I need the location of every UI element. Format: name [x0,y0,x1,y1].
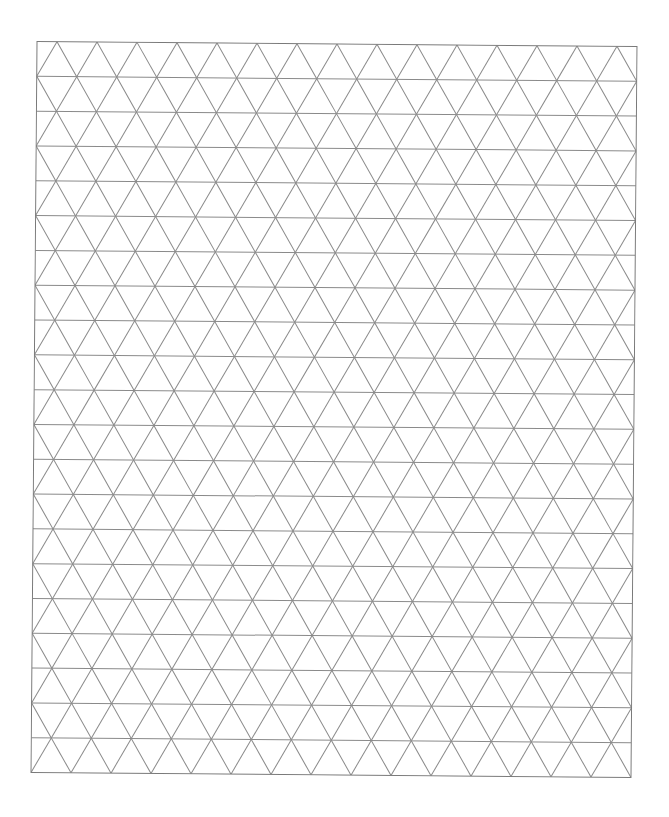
grid-line [236,78,256,113]
grid-line [494,324,514,359]
grid-line [155,251,175,286]
grid-line [154,356,174,391]
grid-line [296,148,316,183]
grid-line [452,602,472,637]
grid-line [434,428,454,463]
grid-line [272,635,292,670]
grid-line [474,428,494,463]
grid-line [32,598,52,633]
grid-line [216,182,236,217]
grid-line [255,287,275,322]
grid-line [254,322,274,357]
grid-line [194,426,214,461]
grid-line [153,460,173,495]
grid-line [313,531,333,566]
grid-line [477,45,497,80]
grid-line [332,636,352,671]
grid-line [375,288,395,323]
grid-line [376,149,396,184]
grid-line [174,426,194,461]
grid-line [613,534,633,569]
grid-line [435,254,455,289]
grid-line [572,568,592,603]
grid-line [552,603,572,638]
grid-line [54,355,74,390]
grid-line [354,392,374,427]
grid-line [154,391,174,426]
grid-line [572,638,592,673]
grid-line [617,46,637,81]
grid-line [254,426,274,461]
grid-line [172,669,192,704]
grid-line [396,114,416,149]
grid-line [34,424,634,429]
grid-line [294,322,314,357]
grid-line [193,495,213,530]
grid-line [257,43,277,78]
grid-line [415,219,435,254]
grid-line [537,46,557,81]
grid-line [352,601,372,636]
grid-line [197,43,217,78]
grid-line [516,115,536,150]
grid-line [213,530,233,565]
grid-line [92,564,112,599]
grid-line [134,390,154,425]
grid-line [196,78,216,113]
grid-line [52,633,72,668]
grid-line [75,286,95,321]
grid-line [351,740,371,775]
grid-line [196,182,216,217]
grid-line [114,390,134,425]
grid-line [113,530,133,565]
grid-line [493,498,513,533]
grid-line [534,394,554,429]
grid-line [196,112,216,147]
grid-line [432,671,452,706]
grid-line [76,146,96,181]
grid-line [552,568,572,603]
grid-line [392,671,412,706]
grid-line [254,391,274,426]
grid-line [272,566,292,601]
grid-line [574,359,594,394]
grid-line [117,42,137,77]
grid-line [452,637,472,672]
grid-line [153,530,173,565]
grid-line [32,703,632,708]
grid-line [114,425,134,460]
grid-line [30,181,36,216]
grid-line [52,668,72,703]
grid-line [511,707,531,742]
grid-line [533,463,553,498]
grid-line [297,44,317,79]
grid-line [36,111,56,146]
grid-line [632,673,638,708]
grid-line [273,461,293,496]
grid-line [454,323,474,358]
grid-line [315,288,335,323]
grid-line [132,634,152,669]
grid-line [375,253,395,288]
grid-line [112,634,132,669]
grid-line [454,428,474,463]
grid-line [491,707,511,742]
grid-line [392,636,412,671]
grid-line [556,115,576,150]
grid-line [34,424,54,459]
grid-line [252,635,272,670]
grid-line [316,148,336,183]
grid-line [353,497,373,532]
grid-line [30,76,37,111]
grid-line [411,706,431,741]
grid-line [351,706,371,741]
grid-line [497,45,517,80]
grid-line [574,429,594,464]
grid-line [591,742,611,777]
grid-line [211,739,231,774]
grid-line [156,182,176,217]
grid-line [316,113,336,148]
grid-line [614,360,634,395]
grid-line [274,357,294,392]
grid-line [453,532,473,567]
